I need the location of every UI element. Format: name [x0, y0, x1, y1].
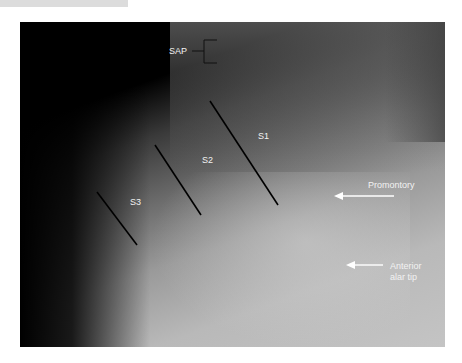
promontory-arrow-icon	[334, 192, 394, 200]
label-anterior-alar-tip-line2: alar tip	[390, 272, 417, 282]
anterior-alar-tip-arrow-icon	[346, 261, 383, 269]
label-promontory: Promontory	[368, 180, 415, 190]
label-s3: S3	[130, 197, 141, 207]
s1-marker-line	[210, 101, 278, 205]
label-anterior-alar-tip-line1: Anterior	[390, 261, 422, 271]
label-s2: S2	[202, 155, 213, 165]
label-s1: S1	[258, 131, 269, 141]
label-sap: SAP	[169, 46, 187, 56]
s2-marker-line	[155, 145, 201, 215]
sap-bracket-icon	[192, 40, 217, 63]
